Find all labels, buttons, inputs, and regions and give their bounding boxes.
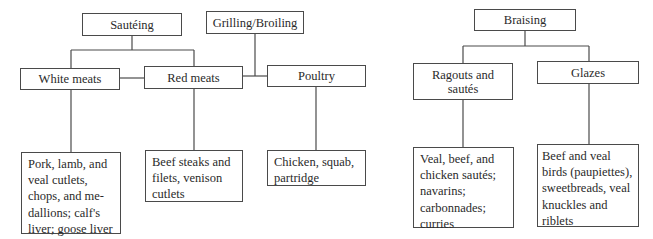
red-meats-examples-box: Beef steaks and filets, venison cutlets	[145, 150, 243, 202]
poultry-label: Poultry	[298, 69, 335, 83]
ragouts-sautes-label: Ragouts and sautés	[432, 68, 494, 96]
grilling-broiling-box: Grilling/Broiling	[206, 11, 304, 34]
red-meats-examples-text: Beef steaks and filets, venison cutlets	[152, 155, 230, 201]
braising-label: Braising	[504, 13, 546, 27]
white-meats-box: White meats	[20, 68, 120, 90]
poultry-box: Poultry	[267, 65, 366, 87]
ragouts-sautes-box: Ragouts and sautés	[413, 63, 513, 100]
white-meats-label: White meats	[39, 72, 102, 86]
red-meats-box: Red meats	[144, 66, 243, 89]
braising-box: Braising	[474, 9, 576, 31]
ragouts-examples-box: Veal, beef, and chicken sautés; navarins…	[413, 147, 514, 228]
glazes-examples-box: Beef and veal birds (paupiettes), sweetb…	[537, 144, 639, 227]
poultry-examples-box: Chicken, squab, partridge	[267, 150, 366, 186]
glazes-box: Glazes	[537, 61, 639, 84]
poultry-examples-text: Chicken, squab, partridge	[274, 155, 354, 185]
white-meats-examples-box: Pork, lamb, and veal cutlets, chops, and…	[21, 152, 121, 234]
grilling-broiling-label: Grilling/Broiling	[213, 16, 298, 30]
white-meats-examples-text: Pork, lamb, and veal cutlets, chops, and…	[28, 157, 113, 236]
red-meats-label: Red meats	[167, 71, 219, 85]
glazes-label: Glazes	[571, 66, 605, 80]
sauteing-label: Sautéing	[110, 18, 154, 32]
glazes-examples-text: Beef and veal birds (paupiettes), sweetb…	[542, 149, 632, 228]
ragouts-examples-text: Veal, beef, and chicken sautés; navarins…	[420, 152, 496, 231]
sauteing-box: Sautéing	[82, 13, 182, 36]
cooking-methods-diagram: Sautéing Grilling/Broiling White meats R…	[0, 0, 653, 239]
